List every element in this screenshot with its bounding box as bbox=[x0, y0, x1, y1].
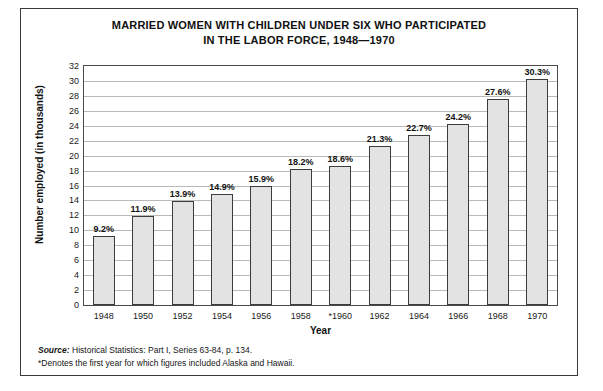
y-axis-tick-label: 2 bbox=[74, 285, 79, 295]
x-axis-tick-label: 1964 bbox=[409, 311, 429, 321]
x-axis-tick-label: *1960 bbox=[328, 311, 352, 321]
y-axis-tick-label: 6 bbox=[74, 255, 79, 265]
x-axis-tick-label: 1962 bbox=[370, 311, 390, 321]
source-text: Historical Statistics: Part I, Series 63… bbox=[70, 345, 252, 355]
bar-value-label: 14.9% bbox=[209, 182, 235, 192]
y-axis-tick-label: 16 bbox=[69, 181, 79, 191]
bar[interactable] bbox=[369, 146, 391, 305]
bar-column[interactable]: 15.9%1956 bbox=[242, 66, 281, 305]
asterisk-footnote: *Denotes the first year for which figure… bbox=[38, 358, 558, 370]
bar-value-label: 13.9% bbox=[170, 189, 196, 199]
x-axis-tick-label: 1970 bbox=[527, 311, 547, 321]
y-axis-tick-label: 18 bbox=[69, 166, 79, 176]
bar-value-label: 11.9% bbox=[131, 204, 156, 214]
bar-column[interactable]: 14.9%1954 bbox=[202, 66, 241, 305]
bar-value-label: 24.2% bbox=[446, 112, 472, 122]
plot-area: 32302826242220181614121086420 9.2%194811… bbox=[83, 65, 558, 306]
x-axis-tick-label: 1952 bbox=[173, 311, 193, 321]
bar[interactable] bbox=[211, 194, 233, 305]
bar[interactable] bbox=[132, 216, 154, 305]
y-axis-tick-label: 8 bbox=[74, 240, 79, 250]
bar-value-label: 27.6% bbox=[485, 87, 511, 97]
x-axis-tick-label: 1958 bbox=[291, 311, 311, 321]
bar[interactable] bbox=[290, 169, 312, 305]
y-axis-title: Number employed (in thousands) bbox=[34, 85, 45, 245]
bar-value-label: 15.9% bbox=[249, 174, 275, 184]
chart-figure: MARRIED WOMEN WITH CHILDREN UNDER SIX WH… bbox=[20, 8, 578, 376]
y-axis-tick-label: 32 bbox=[69, 61, 79, 71]
x-axis-tick-label: 1948 bbox=[94, 311, 114, 321]
bar-value-label: 18.6% bbox=[327, 154, 353, 164]
x-axis-tick-label: 1968 bbox=[488, 311, 508, 321]
source-note: Source: Historical Statistics: Part I, S… bbox=[38, 345, 558, 357]
bar-column[interactable]: 11.9%1950 bbox=[124, 66, 163, 305]
bar-value-label: 18.2% bbox=[288, 157, 314, 167]
bar[interactable] bbox=[250, 186, 272, 305]
bar-column[interactable]: 30.3%1970 bbox=[518, 66, 557, 305]
bar[interactable] bbox=[172, 201, 194, 305]
y-axis-tick-label: 14 bbox=[69, 195, 79, 205]
bar-column[interactable]: 22.7%1964 bbox=[399, 66, 438, 305]
source-label: Source: bbox=[38, 345, 70, 355]
y-axis-tick-label: 24 bbox=[69, 121, 79, 131]
chart-title-line-1: MARRIED WOMEN WITH CHILDREN UNDER SIX WH… bbox=[21, 18, 577, 33]
bar-column[interactable]: 24.2%1966 bbox=[439, 66, 478, 305]
y-axis-tick-label: 28 bbox=[69, 91, 79, 101]
bar[interactable] bbox=[487, 99, 509, 305]
x-axis-title: Year bbox=[83, 325, 558, 336]
chart-title-line-2: IN THE LABOR FORCE, 1948—1970 bbox=[21, 33, 577, 48]
y-axis-tick-label: 12 bbox=[69, 210, 79, 220]
x-axis-tick-label: 1966 bbox=[448, 311, 468, 321]
y-axis-tick-label: 10 bbox=[69, 225, 79, 235]
bar[interactable] bbox=[329, 166, 351, 305]
figure-notes: Source: Historical Statistics: Part I, S… bbox=[38, 345, 558, 369]
bar[interactable] bbox=[408, 135, 430, 305]
x-axis-tick-label: 1956 bbox=[251, 311, 271, 321]
y-axis-tick-label: 26 bbox=[69, 106, 79, 116]
bar-column[interactable]: 9.2%1948 bbox=[84, 66, 123, 305]
bar[interactable] bbox=[526, 79, 548, 305]
x-axis-tick-label: 1950 bbox=[133, 311, 153, 321]
bar[interactable] bbox=[447, 124, 469, 305]
y-axis-tick-label: 22 bbox=[69, 136, 79, 146]
chart-title: MARRIED WOMEN WITH CHILDREN UNDER SIX WH… bbox=[21, 18, 577, 48]
bar-value-label: 22.7% bbox=[406, 123, 432, 133]
x-axis-tick-label: 1954 bbox=[212, 311, 232, 321]
y-axis-tick-label: 20 bbox=[69, 151, 79, 161]
y-axis-tick-label: 4 bbox=[74, 270, 79, 280]
bar-value-label: 9.2% bbox=[93, 224, 114, 234]
bar-column[interactable]: 18.6%*1960 bbox=[321, 66, 360, 305]
bar[interactable] bbox=[93, 236, 115, 305]
bar-value-label: 30.3% bbox=[524, 67, 550, 77]
bar-value-label: 21.3% bbox=[367, 134, 393, 144]
y-axis-tick-label: 30 bbox=[69, 76, 79, 86]
bar-column[interactable]: 18.2%1958 bbox=[281, 66, 320, 305]
bar-column[interactable]: 13.9%1952 bbox=[163, 66, 202, 305]
bar-series: 9.2%194811.9%195013.9%195214.9%195415.9%… bbox=[84, 66, 557, 305]
y-axis-tick-label: 0 bbox=[74, 300, 79, 310]
bar-column[interactable]: 21.3%1962 bbox=[360, 66, 399, 305]
bar-column[interactable]: 27.6%1968 bbox=[478, 66, 517, 305]
